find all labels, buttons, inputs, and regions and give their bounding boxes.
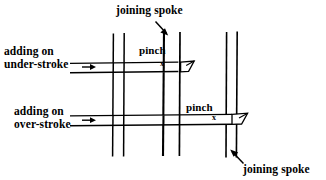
spoke-pair-left	[113, 33, 125, 157]
weaving-diagram-svg	[0, 0, 326, 180]
label-joining-spoke-top: joining spoke	[116, 4, 183, 17]
spoke-right-b	[236, 32, 237, 158]
label-pinch-bottom: pinch	[186, 101, 213, 113]
diagram-canvas: joining spoke adding on under-stroke add…	[0, 0, 326, 180]
spoke-pair-right	[226, 32, 237, 158]
label-x-mark-bottom: x	[212, 114, 216, 123]
label-pinch-top: pinch	[139, 44, 166, 56]
spoke-left-a	[113, 34, 114, 157]
weaver-lower	[70, 113, 248, 126]
spoke-right-a	[226, 32, 227, 158]
label-adding-on-under-stroke: adding on under-stroke	[4, 45, 68, 71]
label-joining-spoke-bottom: joining spoke	[243, 163, 310, 176]
label-x-mark-top: x	[160, 60, 164, 69]
spoke-center-b	[179, 32, 180, 156]
spoke-left-b	[124, 33, 125, 157]
arrow-joining-spoke-top	[156, 22, 169, 36]
label-adding-on-over-stroke: adding on over-stroke	[14, 105, 71, 131]
